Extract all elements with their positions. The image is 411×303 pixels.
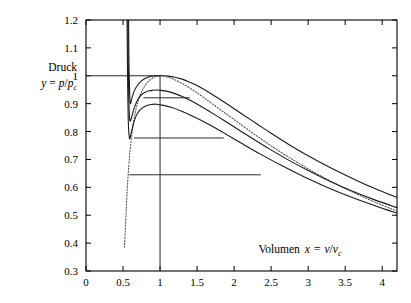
y-tick-label: 0.5 — [64, 209, 78, 221]
y-axis-ticks — [86, 20, 397, 271]
x-tick-label: 1.5 — [190, 276, 204, 288]
x-axis-title: Volumenx=v/vc — [259, 243, 342, 258]
y-axis-tick-labels: 0.30.40.50.60.70.80.911.11.2 — [64, 14, 78, 277]
y-axis-var: y — [40, 77, 47, 90]
x-tick-label: 0.5 — [116, 276, 130, 288]
y-tick-label: 0.4 — [64, 237, 78, 249]
isotherm-curves-group — [127, 20, 397, 213]
x-axis-var: x — [304, 243, 311, 255]
y-tick-label: 0.8 — [64, 126, 78, 138]
x-axis-title-word: Volumen — [259, 243, 301, 255]
chart-root: 00.511.522.533.54 0.30.40.50.60.70.80.91… — [0, 0, 411, 303]
isotherm-sub-2 — [127, 20, 397, 213]
vdw-isotherm-chart: 00.511.522.533.54 0.30.40.50.60.70.80.91… — [0, 0, 411, 303]
x-axis-tick-labels: 00.511.522.533.54 — [83, 276, 385, 288]
x-tick-label: 4 — [379, 276, 385, 288]
y-tick-label: 1.1 — [64, 42, 78, 54]
x-axis-eq: = — [314, 243, 321, 255]
isotherm-sub-1 — [128, 20, 397, 208]
y-axis-den-sub: c — [73, 83, 77, 92]
tie-lines-group — [86, 76, 261, 175]
y-tick-label: 1.2 — [64, 14, 78, 26]
y-axis-eq: = — [49, 77, 56, 89]
x-tick-label: 0 — [83, 276, 89, 288]
x-axis-den-sub: c — [338, 249, 342, 258]
plot-frame — [86, 20, 397, 271]
y-axis-title-formula: y=p/pc — [40, 77, 77, 92]
y-tick-label: 0.3 — [64, 265, 78, 277]
y-axis-title-word: Druck — [48, 61, 77, 73]
x-tick-label: 2 — [231, 276, 237, 288]
y-tick-label: 0.9 — [64, 98, 78, 110]
isotherm-critical — [129, 20, 397, 197]
x-tick-label: 3.5 — [338, 276, 352, 288]
y-tick-label: 0.7 — [64, 153, 78, 165]
y-tick-label: 0.6 — [64, 181, 78, 193]
x-tick-label: 1 — [157, 276, 163, 288]
x-tick-label: 3 — [305, 276, 311, 288]
x-tick-label: 2.5 — [264, 276, 278, 288]
plot-curves — [86, 20, 397, 271]
coexistence-curve-binodal — [125, 76, 398, 248]
